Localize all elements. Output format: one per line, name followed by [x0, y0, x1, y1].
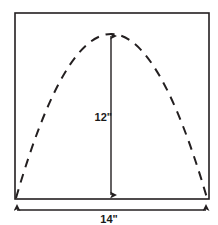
- width-dimension-label: 14": [0, 214, 218, 225]
- geometry-diagram: 12" 14": [0, 0, 218, 225]
- bounding-rectangle: [15, 13, 209, 199]
- height-dimension-label: 12": [90, 112, 112, 123]
